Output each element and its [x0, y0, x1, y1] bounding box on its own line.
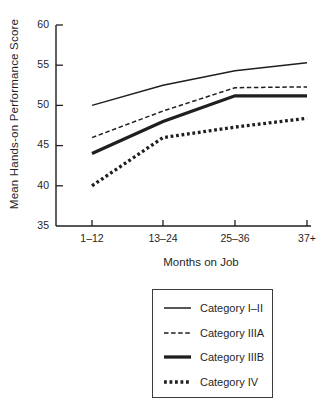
- legend-item-category-iiib: Category IIIB: [164, 345, 272, 370]
- legend-item-category-i-ii: Category I–II: [164, 296, 272, 321]
- x-tick-label: 13–24: [148, 232, 177, 244]
- legend-label: Category I–II: [200, 302, 263, 314]
- performance-chart: 3540455055601–1213–2425–3637+: [0, 0, 330, 252]
- legend-label: Category IV: [200, 376, 258, 388]
- series-line-category-iiib: [92, 96, 307, 154]
- legend-line-sample-category-i-ii: [164, 304, 191, 312]
- y-axis-title: Mean Hands-on Performance Score: [8, 19, 20, 209]
- x-tick-label: 1–12: [80, 232, 104, 244]
- series-line-category-iv: [92, 118, 307, 186]
- figure-performance-by-tenure: 3540455055601–1213–2425–3637+ Mean Hands…: [0, 0, 330, 415]
- y-tick-label: 35: [37, 219, 49, 231]
- y-tick-label: 60: [37, 18, 49, 30]
- legend-label: Category IIIA: [200, 327, 264, 339]
- x-tick-label: 37+: [298, 232, 316, 244]
- legend-item-category-iiia: Category IIIA: [164, 321, 272, 346]
- legend-line-sample-category-iiia: [164, 329, 191, 337]
- legend-rows: Category I–IICategory IIIACategory IIIBC…: [164, 296, 272, 394]
- legend-item-category-iv: Category IV: [164, 370, 272, 395]
- y-tick-label: 40: [37, 179, 49, 191]
- y-tick-label: 50: [37, 98, 49, 110]
- y-tick-label: 55: [37, 58, 49, 70]
- x-tick-label: 25–36: [220, 232, 249, 244]
- legend-line-sample-category-iv: [164, 378, 191, 386]
- legend: Category I–IICategory IIIACategory IIIBC…: [152, 289, 273, 398]
- legend-line-sample-category-iiib: [164, 353, 191, 361]
- x-axis-title: Months on Job: [163, 256, 238, 268]
- y-tick-label: 45: [37, 138, 49, 150]
- legend-label: Category IIIB: [200, 351, 264, 363]
